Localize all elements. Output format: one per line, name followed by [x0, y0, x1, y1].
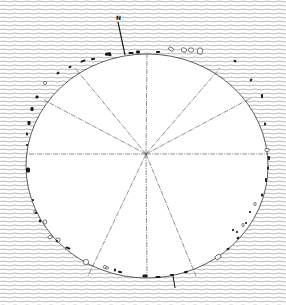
stone-marker: [264, 123, 266, 126]
stone-marker: [143, 275, 148, 278]
stone-marker: [106, 267, 109, 269]
stone-marker: [265, 178, 267, 182]
stone-marker: [245, 222, 247, 224]
stone-marker: [189, 48, 194, 52]
stone-marker: [31, 107, 34, 111]
stone-marker: [261, 94, 263, 98]
stone-marker: [136, 51, 140, 54]
stone-marker: [170, 274, 174, 276]
stone-marker: [129, 52, 134, 54]
stone-marker: [249, 211, 251, 213]
stone-marker: [261, 194, 263, 197]
stone-marker: [44, 220, 47, 224]
stone-circle-plan: N: [0, 0, 286, 305]
stone-marker: [39, 220, 41, 223]
stone-marker: [84, 260, 89, 265]
stone-marker: [28, 121, 31, 125]
north-label: N: [116, 14, 121, 21]
stone-marker: [268, 156, 270, 160]
stone-marker: [254, 203, 256, 206]
stone-marker: [265, 149, 269, 152]
stone-marker: [26, 133, 28, 136]
stone-marker: [56, 240, 58, 242]
stone-marker: [236, 231, 238, 233]
stone-marker: [44, 82, 47, 85]
stone-marker: [267, 167, 269, 170]
stone-marker: [26, 168, 30, 173]
stone-marker: [26, 144, 28, 146]
stone-marker: [36, 96, 39, 99]
stone-marker: [156, 276, 161, 278]
stone-marker: [109, 54, 112, 56]
stone-marker: [242, 224, 244, 227]
stone-marker: [156, 51, 160, 53]
stone-marker: [114, 269, 116, 272]
stone-marker: [197, 48, 203, 55]
stone-marker: [35, 212, 37, 214]
stone-marker: [32, 199, 34, 201]
